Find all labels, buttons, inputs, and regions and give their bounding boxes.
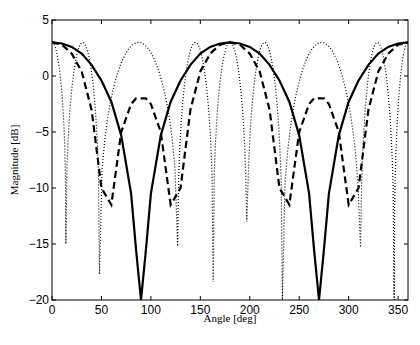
series-dotted-line: [52, 42, 408, 300]
x-tick-label: 0: [49, 303, 56, 317]
y-tick-label: 0: [42, 69, 49, 83]
x-tick-label: 50: [95, 303, 109, 317]
plot-frame: [52, 20, 408, 300]
series-layer: [52, 42, 408, 300]
y-axis-label: Magnitude [dB]: [8, 125, 20, 196]
x-tick-label: 250: [289, 303, 309, 317]
y-tick-label: −5: [35, 125, 49, 139]
x-axis-label: Angle [deg]: [204, 312, 257, 324]
y-tick-label: −15: [29, 237, 50, 251]
y-tick-label: −10: [29, 181, 50, 195]
x-tick-label: 300: [339, 303, 359, 317]
x-tick-label: 100: [141, 303, 161, 317]
y-tick-label: 5: [42, 13, 49, 27]
series-dashed-line: [52, 42, 408, 204]
y-tick-label: −20: [29, 293, 50, 307]
series-solid-line: [52, 42, 408, 300]
x-tick-label: 350: [388, 303, 408, 317]
chart: 05010015020025030035050−5−10−15−20 Angle…: [0, 0, 420, 345]
